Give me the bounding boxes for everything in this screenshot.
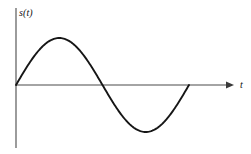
x-axis-label: t: [240, 80, 243, 90]
plot-canvas: [0, 0, 251, 154]
y-axis-label: s(t): [19, 8, 33, 18]
sine-wave-figure: s(t) t: [0, 0, 251, 154]
x-axis-arrow-icon: [226, 82, 234, 89]
